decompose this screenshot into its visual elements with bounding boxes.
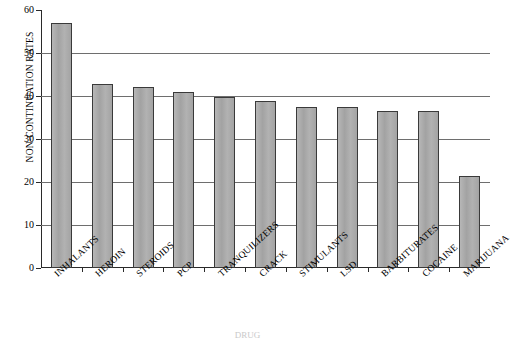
x-tick-mark	[123, 268, 124, 272]
y-tick-label: 20	[24, 177, 34, 187]
x-tick-mark	[449, 268, 450, 272]
y-tick-mark	[36, 10, 41, 11]
y-tick-mark	[36, 53, 41, 54]
bar	[377, 111, 398, 268]
bar	[133, 87, 154, 268]
bar	[296, 107, 317, 268]
y-tick-mark	[36, 225, 41, 226]
y-tick-label: 60	[24, 5, 34, 15]
y-tick-label: 50	[24, 48, 34, 58]
x-axis-title: DRUG	[0, 330, 495, 340]
y-tick-mark	[36, 139, 41, 140]
x-tick-mark	[204, 268, 205, 272]
x-tick-mark	[408, 268, 409, 272]
y-tick-label: 10	[24, 220, 34, 230]
y-tick-mark	[36, 268, 41, 269]
x-tick-mark	[245, 268, 246, 272]
y-tick-mark	[36, 96, 41, 97]
y-tick-label: 40	[24, 91, 34, 101]
bar	[173, 92, 194, 268]
x-tick-mark	[163, 268, 164, 272]
bar	[51, 23, 72, 268]
bar	[214, 97, 235, 268]
y-tick-mark	[36, 182, 41, 183]
x-tick-mark	[286, 268, 287, 272]
y-tick-label: 30	[24, 134, 34, 144]
x-tick-mark	[82, 268, 83, 272]
gridline	[41, 53, 490, 54]
bar	[459, 176, 480, 268]
y-tick-label: 0	[29, 263, 34, 273]
x-tick-mark	[368, 268, 369, 272]
x-tick-mark	[327, 268, 328, 272]
